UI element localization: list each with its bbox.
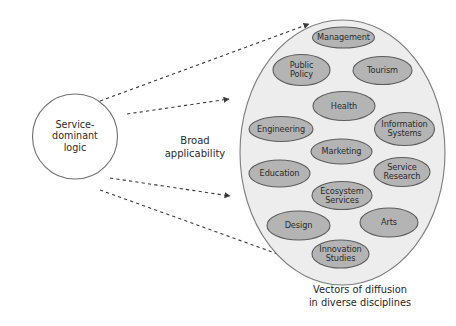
bubble-management xyxy=(313,27,375,48)
bubble-arts xyxy=(360,208,418,237)
bubble-marketing xyxy=(311,139,372,164)
arrow-middle xyxy=(127,99,229,114)
bubble-service-research xyxy=(374,158,430,187)
bubble-tourism xyxy=(353,57,412,85)
bubble-information-systems xyxy=(375,113,435,146)
bubble-public-policy xyxy=(273,55,330,86)
bubble-education xyxy=(249,160,310,187)
arrow-lower-middle xyxy=(110,178,230,196)
bubble-innovation-studies xyxy=(312,240,369,268)
diagram-vector-layer xyxy=(0,0,456,326)
service-dominant-logic-circle xyxy=(33,94,118,179)
bubble-ecosystem-services xyxy=(312,182,372,210)
bubble-health xyxy=(313,92,375,121)
bubble-design xyxy=(267,211,330,240)
diagram-canvas: Service- dominant logic Broad applicabil… xyxy=(0,0,456,326)
bubble-engineering xyxy=(249,117,313,142)
